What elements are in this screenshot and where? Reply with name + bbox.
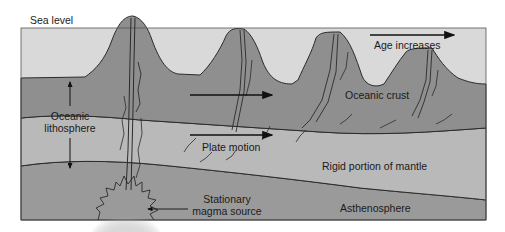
rigid-mantle-label: Rigid portion of mantle <box>322 160 427 172</box>
oceanic-lithosphere-label: Oceanic lithosphere <box>44 110 96 134</box>
oceanic-crust-label: Oceanic crust <box>345 89 409 101</box>
magma-source-label: Stationary magma source <box>188 193 266 217</box>
sea-level-label: Sea level <box>30 14 73 26</box>
age-increases-label: Age increases <box>374 39 441 51</box>
asthenosphere-label: Asthenosphere <box>340 202 411 214</box>
plate-motion-label: Plate motion <box>202 141 260 153</box>
